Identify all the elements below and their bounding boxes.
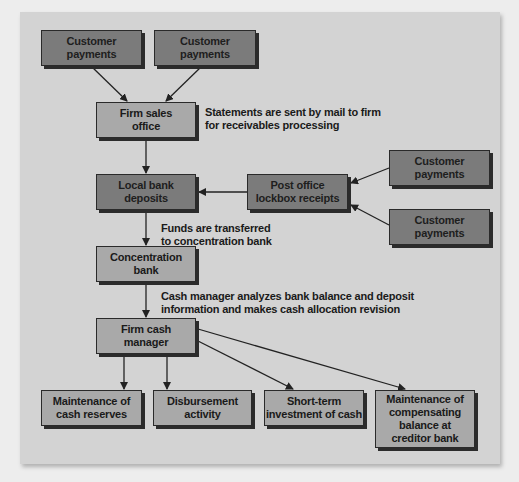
node-disbursement-activity: Disbursement activity (153, 390, 252, 426)
node-customer-payments-2: Customer payments (154, 30, 256, 66)
node-label: Post office lockbox receipts (256, 179, 340, 205)
arrow-cp4-to-lockbox (351, 205, 389, 225)
node-label: Local bank deposits (118, 179, 173, 205)
node-label: Customer payments (415, 155, 465, 181)
node-concentration-bank: Concentration bank (96, 246, 196, 282)
node-customer-payments-4: Customer payments (389, 209, 490, 245)
node-firm-cash-manager: Firm cash manager (96, 318, 196, 354)
node-post-office-lockbox: Post office lockbox receipts (247, 174, 348, 210)
annotation-cash-manager-analyzes: Cash manager analyzes bank balance and d… (161, 290, 414, 316)
arrow-cashmgr-to-shortterm (198, 341, 293, 389)
node-label: Customer payments (67, 35, 117, 61)
node-label: Disbursement activity (167, 395, 238, 421)
node-firm-sales-office: Firm sales office (96, 102, 196, 138)
node-customer-payments-1: Customer payments (41, 30, 142, 66)
arrow-cp3-to-lockbox (351, 168, 389, 183)
annotation-funds-transferred: Funds are transferred to concentration b… (161, 222, 272, 248)
node-cash-reserves: Maintenance of cash reserves (41, 390, 142, 426)
node-label: Firm cash manager (121, 323, 171, 349)
node-compensating-balance: Maintenance of compensating balance at c… (375, 390, 475, 448)
arrow-cp1-to-sales (91, 66, 127, 101)
node-label: Concentration bank (110, 251, 182, 277)
node-customer-payments-3: Customer payments (389, 150, 490, 186)
arrow-cashmgr-to-compbal (198, 329, 405, 389)
node-label: Maintenance of cash reserves (53, 395, 130, 421)
node-short-term-investment: Short-term investment of cash (264, 390, 364, 426)
node-label: Customer payments (415, 214, 465, 240)
node-label: Customer payments (180, 35, 230, 61)
arrow-cp2-to-sales (166, 66, 202, 101)
node-local-bank-deposits: Local bank deposits (96, 174, 196, 210)
node-label: Firm sales office (120, 107, 172, 133)
node-label: Maintenance of compensating balance at c… (386, 393, 463, 445)
annotation-statements: Statements are sent by mail to firm for … (205, 106, 381, 132)
node-label: Short-term investment of cash (266, 395, 362, 421)
